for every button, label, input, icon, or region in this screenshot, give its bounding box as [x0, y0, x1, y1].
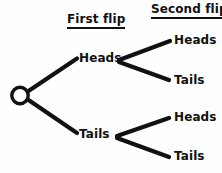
branch-tails-to-tails	[117, 138, 169, 157]
root-node-circle	[12, 87, 28, 103]
column-heading-second-flip: Second flip	[151, 3, 222, 19]
node-label-second-flip-tails-tails: Tails	[174, 150, 205, 163]
coin-flip-tree-diagram: First flip Second flip Heads Tails Heads…	[0, 0, 222, 173]
branch-tails-to-heads	[117, 118, 169, 136]
column-heading-first-flip: First flip	[67, 13, 125, 29]
node-label-second-flip-tails-heads: Heads	[174, 111, 217, 124]
branch-root-to-heads	[29, 59, 78, 92]
branch-root-to-tails	[29, 100, 78, 133]
branch-heads-to-heads	[119, 41, 170, 60]
node-label-second-flip-heads-tails: Tails	[174, 74, 205, 87]
branch-heads-to-tails	[119, 62, 169, 80]
node-label-second-flip-heads-heads: Heads	[174, 34, 217, 47]
node-label-first-flip-tails: Tails	[79, 128, 110, 141]
node-label-first-flip-heads: Heads	[79, 52, 122, 65]
